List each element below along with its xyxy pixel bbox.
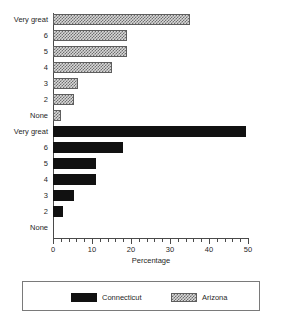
bar-arizona-2: [53, 94, 74, 105]
x-tick-label: 0: [41, 245, 65, 254]
bar-fill: [53, 62, 112, 73]
bar-fill: [53, 190, 74, 201]
y-axis-label: Very great: [14, 126, 48, 137]
bar-arizona-4: [53, 62, 112, 73]
legend: Connecticut Arizona: [22, 281, 260, 311]
y-axis-label: 4: [44, 62, 48, 73]
bar-arizona-none: [53, 110, 61, 121]
x-tick-minor: [69, 239, 70, 242]
bar-connecticut-6: [53, 142, 123, 153]
x-tick-minor: [100, 239, 101, 242]
x-tick-minor: [240, 239, 241, 242]
x-tick-label: 40: [197, 245, 221, 254]
bar-arizona-very-great: [53, 14, 190, 25]
y-axis-label: 5: [44, 158, 48, 169]
legend-label-connecticut: Connecticut: [102, 293, 142, 302]
x-tick-major: [248, 239, 249, 244]
bar-fill: [53, 94, 74, 105]
x-tick-minor: [139, 239, 140, 242]
y-axis-label: None: [30, 222, 48, 233]
x-tick-major: [170, 239, 171, 244]
x-tick-label: 50: [236, 245, 260, 254]
bar-fill: [53, 110, 61, 121]
bar-fill: [53, 14, 190, 25]
bar-arizona-3: [53, 78, 78, 89]
bar-connecticut-4: [53, 174, 96, 185]
legend-swatch-solid-icon: [71, 293, 97, 302]
x-tick-minor: [61, 239, 62, 242]
x-axis-title: Percentage: [53, 256, 249, 265]
x-tick-major: [209, 239, 210, 244]
x-tick-minor: [123, 239, 124, 242]
bar-fill: [53, 174, 96, 185]
y-axis-label: 3: [44, 190, 48, 201]
legend-item-connecticut: Connecticut: [71, 292, 142, 302]
bar-fill: [53, 46, 127, 57]
y-axis-label: 6: [44, 30, 48, 41]
x-tick-minor: [162, 239, 163, 242]
y-axis-label: 4: [44, 174, 48, 185]
x-tick-minor: [115, 239, 116, 242]
bar-chart: Very great65432NoneVery great65432None 0…: [0, 0, 281, 315]
bar-fill: [53, 126, 246, 137]
x-tick-minor: [147, 239, 148, 242]
y-axis-label: 2: [44, 94, 48, 105]
bar-arizona-5: [53, 46, 127, 57]
x-tick-minor: [76, 239, 77, 242]
x-tick-label: 10: [80, 245, 104, 254]
bar-fill: [53, 142, 123, 153]
x-tick-minor: [217, 239, 218, 242]
bar-fill: [53, 78, 78, 89]
legend-item-arizona: Arizona: [171, 292, 227, 302]
x-tick-label: 30: [158, 245, 182, 254]
x-tick-minor: [108, 239, 109, 242]
x-tick-minor: [193, 239, 194, 242]
bar-arizona-6: [53, 30, 127, 41]
legend-label-arizona: Arizona: [202, 293, 227, 302]
y-axis-label: 5: [44, 46, 48, 57]
bar-connecticut-2: [53, 206, 63, 217]
x-tick-minor: [178, 239, 179, 242]
bar-fill: [53, 206, 63, 217]
x-tick-major: [131, 239, 132, 244]
legend-swatch-hatched-icon: [171, 293, 197, 302]
x-tick-minor: [201, 239, 202, 242]
x-tick-major: [53, 239, 54, 244]
y-axis-label: 6: [44, 142, 48, 153]
x-tick-label: 20: [119, 245, 143, 254]
bar-fill: [53, 30, 127, 41]
bar-fill: [53, 158, 96, 169]
y-axis-label: None: [30, 110, 48, 121]
x-tick-minor: [225, 239, 226, 242]
bar-connecticut-3: [53, 190, 74, 201]
x-axis-line: [53, 238, 249, 239]
bar-connecticut-very-great: [53, 126, 246, 137]
y-axis-label: Very great: [14, 14, 48, 25]
y-axis-label: 3: [44, 78, 48, 89]
x-tick-major: [92, 239, 93, 244]
x-tick-minor: [154, 239, 155, 242]
bar-connecticut-5: [53, 158, 96, 169]
x-tick-minor: [84, 239, 85, 242]
x-tick-minor: [232, 239, 233, 242]
y-axis-label: 2: [44, 206, 48, 217]
x-tick-minor: [186, 239, 187, 242]
